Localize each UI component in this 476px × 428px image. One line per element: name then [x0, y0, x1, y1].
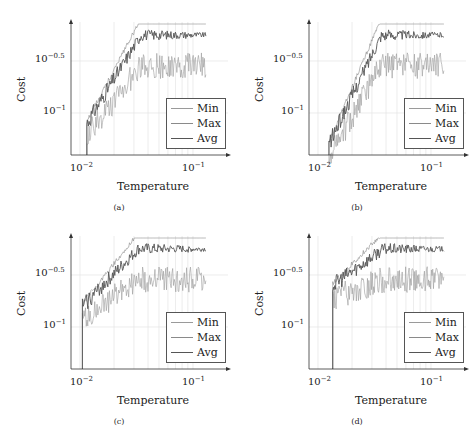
- legend: MinMaxAvg: [404, 312, 464, 363]
- y-tick-label: 10−0.5: [273, 266, 303, 278]
- legend: MinMaxAvg: [166, 98, 226, 149]
- legend-item-min: Min: [409, 101, 459, 116]
- legend-item-avg: Avg: [409, 131, 459, 146]
- x-tick-label: 10−1: [420, 161, 443, 173]
- y-tick-label: 10−1: [43, 318, 66, 330]
- legend-item-min: Min: [409, 315, 459, 330]
- x-axis-label: Temperature: [117, 180, 189, 193]
- y-axis-label: Cost: [253, 291, 266, 316]
- x-tick-label: 10−1: [182, 161, 205, 173]
- panel-caption: (c): [0, 417, 238, 426]
- legend-item-max: Max: [409, 330, 459, 345]
- y-tick-label: 10−1: [281, 104, 304, 116]
- y-axis-label: Cost: [253, 77, 266, 102]
- legend: MinMaxAvg: [166, 312, 226, 363]
- x-tick-label: 10−2: [308, 375, 331, 387]
- legend-item-max: Max: [171, 116, 221, 131]
- legend-item-min: Min: [171, 101, 221, 116]
- panel-caption: (b): [238, 203, 476, 212]
- y-tick-label: 10−0.5: [35, 52, 65, 64]
- x-axis-label: Temperature: [355, 394, 427, 407]
- y-tick-label: 10−1: [281, 318, 304, 330]
- x-tick-label: 10−2: [308, 161, 331, 173]
- panel-caption: (d): [238, 417, 476, 426]
- legend: MinMaxAvg: [404, 98, 464, 149]
- legend-item-avg: Avg: [409, 345, 459, 360]
- y-axis-label: Cost: [15, 291, 28, 316]
- x-tick-label: 10−1: [420, 375, 443, 387]
- chart-panel-d: 10−210−110−0.510−1TemperatureCost(d)MinM…: [238, 214, 476, 428]
- legend-item-avg: Avg: [171, 345, 221, 360]
- legend-item-max: Max: [171, 330, 221, 345]
- chart-panel-a: 10−210−110−0.510−1TemperatureCost(a)MinM…: [0, 0, 238, 214]
- chart-panel-b: 10−210−110−0.510−1TemperatureCost(b)MinM…: [238, 0, 476, 214]
- x-axis-label: Temperature: [355, 180, 427, 193]
- x-tick-label: 10−2: [70, 161, 93, 173]
- y-tick-label: 10−1: [43, 104, 66, 116]
- legend-item-max: Max: [409, 116, 459, 131]
- y-tick-label: 10−0.5: [35, 266, 65, 278]
- legend-item-min: Min: [171, 315, 221, 330]
- panel-caption: (a): [0, 203, 238, 212]
- y-axis-label: Cost: [15, 77, 28, 102]
- chart-panel-c: 10−210−110−0.510−1TemperatureCost(c)MinM…: [0, 214, 238, 428]
- x-tick-label: 10−2: [70, 375, 93, 387]
- y-tick-label: 10−0.5: [273, 52, 303, 64]
- x-axis-label: Temperature: [117, 394, 189, 407]
- x-tick-label: 10−1: [182, 375, 205, 387]
- legend-item-avg: Avg: [171, 131, 221, 146]
